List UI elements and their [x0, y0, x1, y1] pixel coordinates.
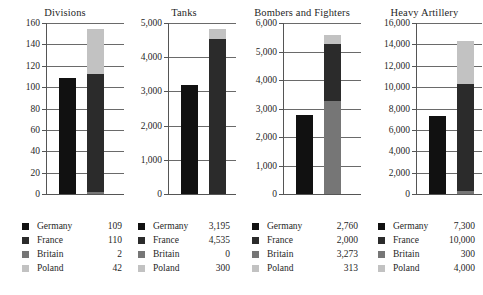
legend-label-france: France [153, 235, 201, 246]
y-axis-tick-label: 3,000 [256, 104, 277, 114]
y-axis-tick-label: 1,000 [256, 161, 277, 171]
y-axis-tick-label: 0 [405, 189, 410, 199]
y-axis-tick-label: 80 [31, 104, 41, 114]
legend-value-germany: 2,760 [315, 221, 366, 232]
y-axis-tick-label: 60 [31, 125, 41, 135]
y-axis-tick-label: 4,000 [141, 52, 162, 62]
legend-value-poland: 4,000 [441, 263, 483, 274]
legend-value-germany: 3,195 [201, 221, 238, 232]
bars-heavy-artillery [417, 23, 476, 194]
panel-bombers-and-fighters: Bombers and Fighters 01,0002,0003,0004,0… [238, 7, 366, 215]
legend-label-france: France [393, 235, 441, 246]
legend-value-britain: 2 [85, 249, 130, 260]
legend-heavy-artillery: Germany 7,300 France 10,000 Britain 300 … [366, 219, 483, 295]
legend-item: France 110 [22, 233, 130, 247]
y-axis-tick-label: 4,000 [389, 146, 410, 156]
bar-segment-france [87, 74, 104, 192]
x-axis-baseline [168, 194, 236, 195]
legend-item: Poland 313 [252, 261, 366, 275]
bars-divisions [47, 23, 118, 194]
bar-segment-france [457, 84, 474, 191]
legend-swatch-poland [138, 265, 145, 272]
legend-swatch-france [138, 237, 145, 244]
legend-item: Germany 109 [22, 219, 130, 233]
bar-germany [181, 85, 198, 194]
y-axis-tick-label: 0 [272, 189, 277, 199]
legend-item: Germany 2,760 [252, 219, 366, 233]
legend-swatch-germany [22, 223, 29, 230]
legend-tanks: Germany 3,195 France 4,535 Britain 0 Pol… [130, 219, 238, 295]
legend-label-britain: Britain [153, 249, 201, 260]
bar-segment-france [324, 44, 341, 101]
legend-label-poland: Poland [153, 263, 201, 274]
legend-swatch-britain [252, 251, 259, 258]
bar-allies-stacked [209, 29, 226, 194]
y-axis-tick-label: 6,000 [389, 125, 410, 135]
y-axis-tick [279, 194, 284, 195]
legend-swatch-britain [378, 251, 385, 258]
legend-label-france: France [37, 235, 85, 246]
y-axis-tick-label: 12,000 [384, 61, 410, 71]
y-axis-tick-label: 120 [26, 61, 40, 71]
legend-swatch-poland [378, 265, 385, 272]
x-axis-baseline [46, 194, 124, 195]
legend-item: Poland 42 [22, 261, 130, 275]
legend-swatch-germany [252, 223, 259, 230]
y-axis-tick-label: 8,000 [389, 104, 410, 114]
y-axis-tick [164, 194, 169, 195]
y-axis-tick-label: 14,000 [384, 39, 410, 49]
x-axis-baseline [416, 194, 482, 195]
legend-item: France 2,000 [252, 233, 366, 247]
plot-area-bombers-and-fighters: 01,0002,0003,0004,0005,0006,000 [283, 23, 355, 195]
bar-germany [429, 116, 446, 194]
y-axis-tick-label: 6,000 [256, 18, 277, 28]
y-axis-tick [42, 194, 47, 195]
y-axis-tick-label: 2,000 [141, 121, 162, 131]
legend-item: Germany 7,300 [378, 219, 483, 233]
legend-item: Britain 300 [378, 247, 483, 261]
panel-title-divisions: Divisions [0, 7, 130, 23]
y-axis-tick-label: 5,000 [141, 18, 162, 28]
legend-item: France 10,000 [378, 233, 483, 247]
y-axis-tick-label: 20 [31, 168, 41, 178]
legend-swatch-germany [138, 223, 145, 230]
y-axis-tick-label: 16,000 [384, 18, 410, 28]
bar-allies-stacked [87, 29, 104, 194]
legend-swatch-france [252, 237, 259, 244]
bars-bombers-and-fighters [284, 23, 355, 194]
legend-value-france: 10,000 [441, 235, 483, 246]
figure-small-multiples-bar-charts: Divisions 020406080100120140160 Tanks 01… [0, 0, 483, 295]
bar-segment-poland [87, 29, 104, 74]
legend-value-france: 110 [85, 235, 130, 246]
bars-tanks [169, 23, 230, 194]
bar-segment-poland [324, 35, 341, 44]
y-axis-tick-label: 4,000 [256, 75, 277, 85]
y-axis-tick-label: 40 [31, 146, 41, 156]
y-axis-tick [412, 194, 417, 195]
legend-item: Poland 300 [138, 261, 238, 275]
legend-label-germany: Germany [153, 221, 201, 232]
bar-germany [296, 115, 313, 194]
legend-value-poland: 313 [315, 263, 366, 274]
legend-swatch-britain [22, 251, 29, 258]
legend-value-poland: 42 [85, 263, 130, 274]
panel-tanks: Tanks 01,0002,0003,0004,0005,000 [130, 7, 238, 215]
y-axis-tick-label: 2,000 [389, 168, 410, 178]
bar-segment-france [209, 39, 226, 194]
legend-label-britain: Britain [393, 249, 441, 260]
legend-value-britain: 3,273 [315, 249, 366, 260]
y-axis-tick-label: 10,000 [384, 82, 410, 92]
legend-value-britain: 300 [441, 249, 483, 260]
y-axis-tick-label: 160 [26, 18, 40, 28]
legend-label-poland: Poland [267, 263, 315, 274]
legend-row: Germany 109 France 110 Britain 2 Poland … [0, 215, 483, 295]
legend-label-germany: Germany [267, 221, 315, 232]
legend-value-france: 2,000 [315, 235, 366, 246]
bar-segment-britain [324, 101, 341, 194]
legend-divisions: Germany 109 France 110 Britain 2 Poland … [0, 219, 130, 295]
y-axis-tick-label: 5,000 [256, 47, 277, 57]
legend-label-france: France [267, 235, 315, 246]
plot-area-divisions: 020406080100120140160 [46, 23, 118, 195]
legend-bombers-and-fighters: Germany 2,760 France 2,000 Britain 3,273… [238, 219, 366, 295]
legend-value-germany: 109 [85, 221, 130, 232]
